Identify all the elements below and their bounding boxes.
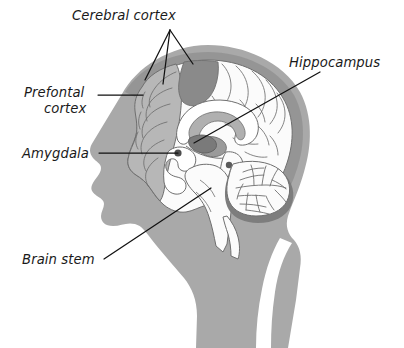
- brain-diagram-figure: Cerebral cortex Prefontal cortex Amygdal…: [0, 0, 404, 348]
- brain-diagram-svg: Cerebral cortex Prefontal cortex Amygdal…: [0, 0, 404, 348]
- label-brain-stem: Brain stem: [22, 252, 95, 267]
- label-amygdala: Amygdala: [21, 146, 89, 161]
- label-cerebral-cortex: Cerebral cortex: [72, 8, 176, 23]
- label-prefontal-cortex-line1: Prefontal: [24, 85, 85, 100]
- label-prefontal-cortex-line2: cortex: [44, 101, 87, 116]
- label-hippocampus: Hippocampus: [289, 55, 380, 70]
